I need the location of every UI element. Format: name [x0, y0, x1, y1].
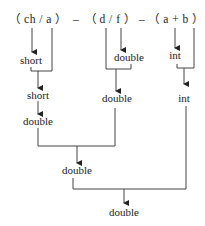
connector-b: [177, 28, 194, 68]
node-sub1-double: double: [62, 165, 92, 176]
connector-sub1: [38, 108, 115, 146]
connector-final: [73, 106, 186, 189]
node-cha-short: short: [27, 90, 49, 101]
node-short-double: double: [23, 116, 53, 127]
node-ab-int: int: [178, 93, 190, 104]
expr-op2: –: [139, 14, 145, 26]
expr-part1: （ ch / a ）: [9, 14, 67, 26]
diagram-lines: [0, 0, 205, 226]
expr-op1: –: [73, 14, 79, 26]
node-a-int: int: [169, 50, 181, 61]
expr-part3: （ a + b ）: [148, 14, 203, 26]
node-df-double: double: [102, 93, 132, 104]
expr-part2: （ d / f ）: [85, 14, 136, 26]
node-ch-short: short: [20, 55, 42, 66]
node-f-double: double: [114, 52, 144, 63]
node-final-double: double: [109, 207, 139, 218]
